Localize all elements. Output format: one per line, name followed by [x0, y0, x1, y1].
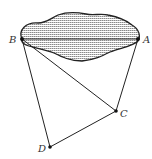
point-c — [114, 109, 118, 113]
geometry-figure: A B C D — [0, 0, 152, 159]
point-a — [136, 37, 140, 41]
label-d: D — [37, 143, 46, 154]
shaded-region — [21, 13, 139, 61]
label-a: A — [142, 34, 150, 45]
point-b — [20, 37, 24, 41]
label-b: B — [8, 34, 16, 45]
segment-ca — [116, 39, 138, 111]
segment-bd — [22, 39, 50, 147]
point-d — [48, 145, 52, 149]
label-c: C — [120, 108, 128, 119]
segment-dc — [50, 111, 116, 147]
